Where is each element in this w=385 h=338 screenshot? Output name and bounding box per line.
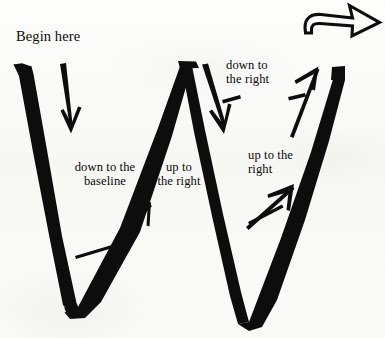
stroke-4-texture (331, 66, 345, 80)
figure-canvas: Begin here down to the baseline up to th… (0, 0, 385, 338)
label-up-to-the-right-final: up to the right (248, 148, 322, 176)
stroke-3-texture (178, 61, 199, 69)
arrow-down-icon (60, 63, 82, 134)
label-down-to-the-right: down to the right (226, 58, 298, 86)
label-begin-here: Begin here (16, 28, 80, 44)
stroke-2-up-to-right (65, 64, 193, 320)
label-up-to-the-right-middle: up to the right (148, 160, 210, 188)
hollow-right-arrow-icon (305, 6, 380, 37)
stroke-1-down-to-baseline (14, 65, 81, 314)
label-down-to-baseline: down to the baseline (57, 160, 153, 188)
letter-w-strokes (14, 61, 346, 331)
